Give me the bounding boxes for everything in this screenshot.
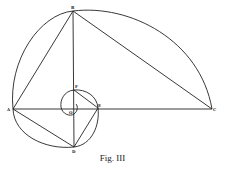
label-E: E bbox=[98, 103, 101, 108]
line-FE bbox=[74, 90, 98, 108]
label-O: O bbox=[69, 110, 73, 115]
label-F: F bbox=[75, 84, 78, 89]
label-A: A bbox=[6, 107, 11, 112]
line-AD bbox=[13, 109, 74, 147]
label-B: B bbox=[71, 5, 75, 10]
label-C: C bbox=[213, 107, 216, 112]
arc-large bbox=[12, 10, 212, 109]
line-DE bbox=[74, 108, 98, 147]
line-BD bbox=[73, 11, 74, 147]
figure-caption: Fig. III bbox=[0, 153, 225, 163]
geometric-figure: B A C D F O E bbox=[0, 0, 225, 172]
